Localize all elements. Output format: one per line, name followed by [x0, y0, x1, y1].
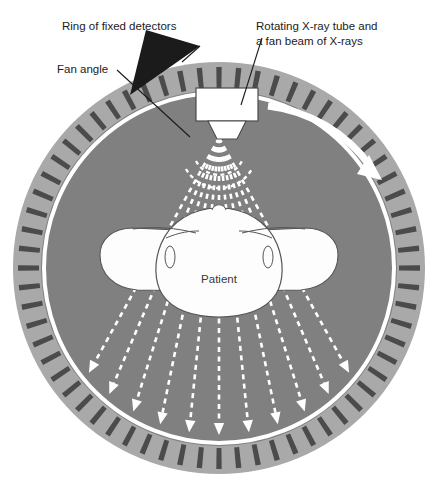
patient-right-humerus — [263, 246, 273, 268]
detectors-label: Ring of fixed detectors — [62, 20, 177, 32]
patient-left-humerus — [165, 246, 175, 268]
detector-bar — [399, 265, 420, 270]
detector-bar — [216, 448, 221, 469]
fan-angle-label: Fan angle — [57, 63, 108, 75]
patient-label: Patient — [201, 273, 238, 285]
x-ray-tube-housing — [196, 88, 258, 121]
detector-bar — [18, 265, 39, 270]
ct-scanner-diagram: Patient Ring of fixed detectors Fan angl… — [0, 0, 437, 485]
tube-label-line2: a fan beam of X-rays — [256, 35, 363, 47]
diagram-canvas: Patient Ring of fixed detectors Fan angl… — [0, 0, 437, 485]
detector-bar — [216, 67, 221, 88]
tube-label-line1: Rotating X-ray tube and — [256, 20, 377, 32]
